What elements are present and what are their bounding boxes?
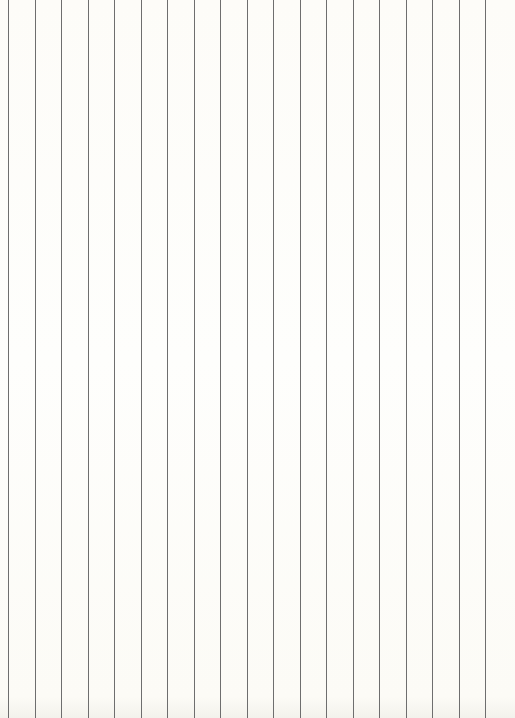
ruled-line (300, 0, 301, 718)
ruled-paper-sheet (0, 0, 515, 718)
ruled-line (8, 0, 9, 718)
ruled-line (406, 0, 407, 718)
ruled-line (247, 0, 248, 718)
ruled-line (114, 0, 115, 718)
ruled-line (432, 0, 433, 718)
ruled-line (485, 0, 486, 718)
ruled-line (273, 0, 274, 718)
ruled-line (167, 0, 168, 718)
ruled-line (459, 0, 460, 718)
ruled-line (35, 0, 36, 718)
ruled-line (61, 0, 62, 718)
ruled-line (379, 0, 380, 718)
ruled-line (141, 0, 142, 718)
ruled-line (353, 0, 354, 718)
ruled-line (220, 0, 221, 718)
ruled-line (194, 0, 195, 718)
ruled-line (88, 0, 89, 718)
ruled-line (326, 0, 327, 718)
